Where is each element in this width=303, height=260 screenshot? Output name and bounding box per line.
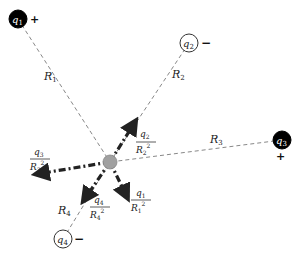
distance-r3-label: R3 — [209, 133, 223, 147]
term-q4-over-r4-squared: q4 R42 — [89, 195, 110, 221]
svg-text:q2: q2 — [140, 129, 150, 140]
svg-text:R42: R42 — [89, 207, 105, 221]
term-q2-over-r2-squared: q2 R22 — [135, 129, 156, 156]
distance-r2-label: R2 — [171, 68, 185, 82]
charge-q2-sign: − — [201, 36, 211, 50]
distance-r1-label: R1 — [43, 70, 57, 84]
term-q3-over-r3-squared: q3 R32 — [29, 147, 50, 173]
charge-q1: q1 + — [9, 10, 39, 28]
charge-q4: q4 − — [54, 230, 84, 248]
term-q1-over-r1-squared: q1 R12 — [130, 188, 151, 214]
svg-text:q3: q3 — [34, 147, 44, 158]
charge-q4-sign: − — [74, 232, 84, 246]
svg-text:q4: q4 — [94, 195, 104, 206]
charge-q2: q2 − — [180, 34, 211, 52]
svg-text:R12: R12 — [130, 200, 146, 214]
charge-q3-sign: + — [276, 150, 285, 163]
svg-text:q1: q1 — [136, 188, 146, 199]
charge-q1-sign: + — [30, 13, 39, 26]
distance-r4-label: R4 — [57, 204, 71, 218]
arrow-q3-term — [37, 162, 110, 174]
svg-text:R22: R22 — [135, 142, 151, 156]
line-r1 — [18, 19, 110, 162]
svg-text:R32: R32 — [29, 159, 45, 173]
field-point — [103, 155, 117, 169]
superposition-diagram: q1 + q2 − q3 + q4 − R1 R2 R3 R4 q2 R22 q… — [0, 0, 303, 260]
charge-q3: q3 + — [273, 131, 291, 163]
